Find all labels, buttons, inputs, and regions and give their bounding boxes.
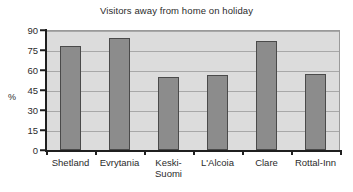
y-tick-label: 45: [4, 85, 38, 96]
y-tick-mark: [40, 129, 45, 131]
chart-title: Visitors away from home on holiday: [0, 5, 353, 16]
gridlines: [46, 31, 339, 150]
y-tick-label: 0: [4, 145, 38, 156]
x-category-label: Rottal-Inn: [285, 157, 347, 168]
gridline: [46, 91, 339, 92]
x-tick-mark: [193, 150, 195, 155]
y-tick-label: 75: [4, 45, 38, 56]
x-tick-mark: [242, 150, 244, 155]
y-tick-mark: [40, 89, 45, 91]
y-tick-mark: [40, 69, 45, 71]
y-tick-mark: [40, 29, 45, 31]
y-tick-label: 90: [4, 25, 38, 36]
gridline: [46, 71, 339, 72]
x-tick-mark: [144, 150, 146, 155]
y-tick-label: 15: [4, 125, 38, 136]
y-tick-mark: [40, 149, 45, 151]
bar: [207, 75, 228, 150]
gridline: [46, 111, 339, 112]
bar: [256, 41, 277, 150]
x-tick-mark: [291, 150, 293, 155]
gridline: [46, 31, 339, 32]
y-tick-mark: [40, 49, 45, 51]
gridline: [46, 51, 339, 52]
x-tick-mark: [46, 150, 48, 155]
bar: [305, 74, 326, 150]
x-tick-mark: [95, 150, 97, 155]
bar: [109, 38, 130, 150]
bar-chart-figure: Visitors away from home on holiday % 015…: [0, 0, 353, 192]
y-tick-label: 60: [4, 65, 38, 76]
bar: [158, 77, 179, 150]
bar: [60, 46, 81, 150]
x-tick-mark: [340, 150, 342, 155]
y-tick-label: 30: [4, 105, 38, 116]
y-tick-mark: [40, 109, 45, 111]
y-axis-line: [45, 29, 47, 151]
plot-area: [46, 30, 340, 150]
gridline: [46, 131, 339, 132]
